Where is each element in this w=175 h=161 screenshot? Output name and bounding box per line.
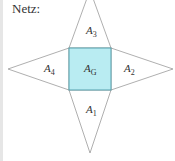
pyramid-net-figure: Netz: A3 A4 AG A2 A1 [0,0,175,161]
triangle-a4 [8,48,69,90]
triangle-a2 [111,48,173,90]
net-diagram: A3 A4 AG A2 A1 [0,0,175,161]
triangle-a1 [69,90,111,153]
